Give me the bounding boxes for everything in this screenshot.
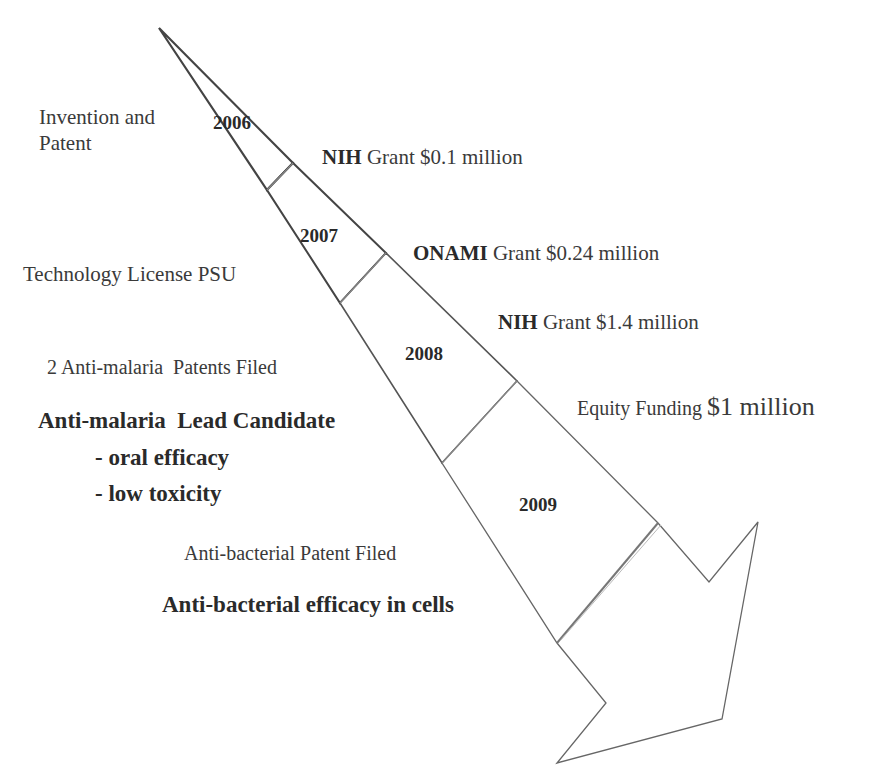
equity-amount: $1 million [707,392,815,421]
milestone-bacterial-patent: Anti-bacterial Patent Filed [184,542,396,565]
timeline-diagram: 2006 2007 2008 2009 Invention and Patent… [0,0,880,779]
funding-equity: Equity Funding $1 million [577,392,815,422]
year-label-2007: 2007 [300,225,338,247]
year-label-2009: 2009 [519,494,557,516]
segment-2006 [159,28,293,190]
equity-label: Equity Funding [577,397,707,419]
funding-onami-grant: ONAMI Grant $0.24 million [413,241,659,265]
year-label-2006: 2006 [213,112,251,134]
funding-amount: Grant $1.4 million [538,310,699,334]
milestone-malaria-patents: 2 Anti-malaria Patents Filed [47,356,277,379]
funding-org-onami: ONAMI [413,241,488,265]
funding-nih-grant-2: NIH Grant $1.4 million [498,310,699,334]
milestone-invention-line1: Invention and [39,105,155,129]
milestone-technology-license: Technology License PSU [23,262,236,286]
milestone-invention-line2: Patent [39,131,155,155]
funding-amount: Grant $0.24 million [488,241,660,265]
funding-nih-grant-1: NIH Grant $0.1 million [322,145,523,169]
milestone-bacterial-efficacy: Anti-bacterial efficacy in cells [162,592,454,618]
segment-2009-arrowhead [442,381,758,763]
funding-org-nih: NIH [498,310,538,334]
license-psu: PSU [198,262,237,286]
year-label-2008: 2008 [405,343,443,365]
license-text: Technology License [23,262,198,286]
funding-org-nih: NIH [322,145,362,169]
milestone-invention: Invention and Patent [39,105,155,155]
funding-amount: Grant $0.1 million [362,145,523,169]
malaria-point-low-toxicity: - low toxicity [95,481,221,507]
milestone-malaria-lead: Anti-malaria Lead Candidate [38,408,335,434]
malaria-point-oral-efficacy: - oral efficacy [95,445,229,471]
